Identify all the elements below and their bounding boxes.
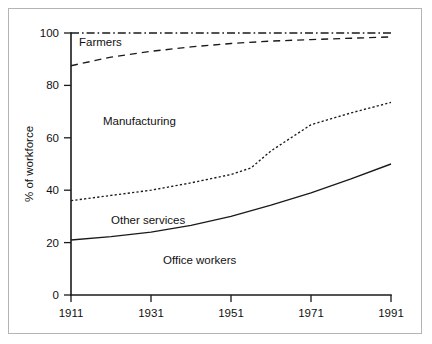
series-label-other-services: Other services [111, 214, 185, 226]
y-axis-tick-label: 40 [46, 184, 59, 196]
y-axis-tick-label: 60 [46, 132, 59, 144]
y-axis-tick-label: 0 [53, 289, 59, 301]
y-axis-tick-label: 80 [46, 79, 59, 91]
chart-figure: 020406080100 19111931195119711991 % of w… [0, 0, 432, 344]
x-axis-tick-label: 1951 [218, 307, 244, 319]
series-label-office-workers: Office workers [163, 254, 237, 266]
series-label-manufacturing: Manufacturing [103, 115, 176, 127]
y-axis-ticks [64, 33, 71, 295]
x-axis-tick-label: 1911 [59, 307, 84, 319]
y-axis-tick-label: 100 [40, 27, 59, 39]
x-axis-ticks [71, 295, 391, 302]
x-axis-tick-label: 1991 [378, 307, 404, 319]
series-label-farmers: Farmers [79, 36, 122, 48]
y-axis-tick-labels: 020406080100 [40, 27, 59, 301]
y-axis-title: % of workforce [23, 126, 35, 202]
line-chart-plot: 020406080100 19111931195119711991 % of w… [0, 0, 432, 344]
y-axis-tick-label: 20 [46, 237, 59, 249]
data-series-group [71, 33, 391, 240]
series-line-office-workers [71, 164, 391, 240]
x-axis-tick-labels: 19111931195119711991 [59, 307, 404, 319]
x-axis-tick-label: 1971 [298, 307, 324, 319]
x-axis-tick-label: 1931 [138, 307, 164, 319]
